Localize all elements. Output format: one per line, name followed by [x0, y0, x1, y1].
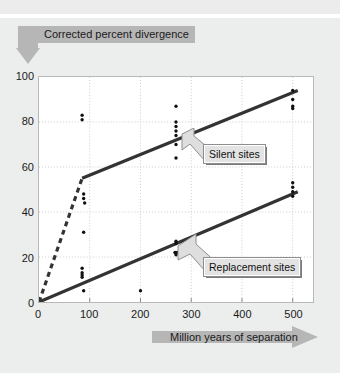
top-strip [0, 0, 340, 14]
silent-sites-label: Silent sites [204, 145, 265, 163]
y-tick-label: 20 [4, 253, 34, 263]
bottom-strip [0, 373, 340, 378]
y-axis-label: Corrected percent divergence [38, 26, 195, 43]
x-tick-label: 0 [18, 308, 58, 320]
figure-container: Corrected percent divergence 10080604020… [0, 0, 340, 378]
x-tick-label: 300 [171, 308, 211, 320]
x-tick-label: 500 [274, 308, 314, 320]
y-tick-label: 80 [4, 116, 34, 126]
y-tick-label: 40 [4, 207, 34, 217]
y-tick-label: 100 [4, 71, 34, 81]
y-tick-label: 0 [4, 298, 34, 308]
x-tick-label: 200 [120, 308, 160, 320]
x-tick-label: 400 [222, 308, 262, 320]
x-tick-label: 100 [69, 308, 109, 320]
replacement-sites-label: Replacement sites [204, 258, 300, 276]
x-tick-labels: 0100200300400500 [0, 308, 340, 324]
x-axis-label: Million years of separation [170, 328, 298, 346]
y-tick-label: 60 [4, 162, 34, 172]
